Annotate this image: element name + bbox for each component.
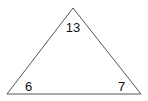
bottom-left-number: 6 bbox=[25, 79, 32, 94]
top-number: 13 bbox=[66, 20, 80, 35]
bottom-right-number: 7 bbox=[118, 79, 125, 94]
triangle-diagram: 13 6 7 bbox=[0, 0, 148, 101]
